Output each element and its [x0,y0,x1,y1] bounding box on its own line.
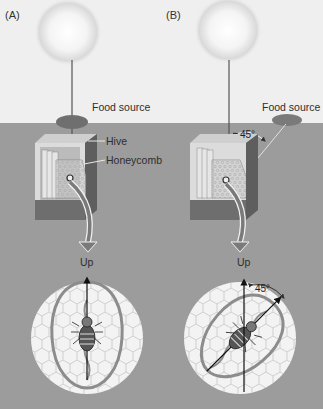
ground-angle-label: 45° [240,130,255,140]
food-source-label-a: Food source [92,102,150,113]
up-label-a: Up [80,257,93,268]
hive-label: Hive [106,136,127,147]
bee-waggle-dance-figure: (A) (B) Food source Food source Hive Hon… [0,0,323,409]
comb-angle-label: 45° [255,284,270,294]
up-label-b: Up [237,257,250,268]
food-source-bush-icon [272,114,302,126]
sun-icon [34,0,102,66]
panel-label-a: (A) [5,10,20,21]
panel-label-b: (B) [166,10,181,21]
food-source-bush-icon [56,115,88,129]
honeycomb-label: Honeycomb [106,155,162,166]
food-source-label-b: Food source [262,102,320,113]
hive-b [190,134,258,220]
diagram-canvas [0,0,323,409]
